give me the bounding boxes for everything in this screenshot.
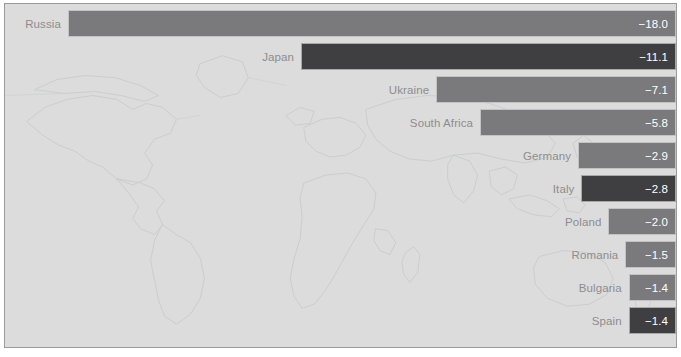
bar-rect: −5.8: [480, 109, 676, 136]
bar-row: Spain−1.4: [5, 307, 677, 334]
bar-category-label: Japan: [262, 51, 301, 63]
bar-value-label: −1.5: [645, 249, 675, 261]
bar-value-label: −11.1: [639, 51, 675, 63]
plot-area: Russia−18.0Japan−11.1Ukraine−7.1South Af…: [4, 3, 677, 348]
bar-value-label: −1.4: [645, 315, 675, 327]
bar-category-label: Italy: [553, 183, 582, 195]
bar-value-label: −7.1: [645, 84, 675, 96]
bar-rect: −1.4: [629, 307, 676, 334]
bar-category-label: Poland: [565, 216, 608, 228]
bar-value-label: −18.0: [638, 18, 675, 30]
bar-category-label: Spain: [592, 315, 629, 327]
bar-value-label: −2.0: [645, 216, 675, 228]
bar-rect: −1.4: [629, 274, 676, 301]
bar-row: South Africa−5.8: [5, 109, 677, 136]
bar-rect: −2.8: [581, 175, 676, 202]
bar-category-label: Russia: [25, 18, 68, 30]
bar-category-label: Germany: [523, 150, 578, 162]
bar-row: Japan−11.1: [5, 43, 677, 70]
bar-value-label: −2.9: [645, 150, 675, 162]
bar-value-label: −2.8: [645, 183, 675, 195]
bars-layer: Russia−18.0Japan−11.1Ukraine−7.1South Af…: [5, 4, 676, 347]
bar-category-label: Romania: [572, 249, 626, 261]
bar-category-label: Bulgaria: [579, 282, 629, 294]
bar-category-label: South Africa: [410, 117, 480, 129]
bar-rect: −2.9: [578, 142, 676, 169]
bar-rect: −2.0: [608, 208, 676, 235]
bar-row: Poland−2.0: [5, 208, 677, 235]
bar-row: Ukraine−7.1: [5, 76, 677, 103]
bar-row: Russia−18.0: [5, 10, 677, 37]
bar-row: Bulgaria−1.4: [5, 274, 677, 301]
bar-value-label: −5.8: [645, 117, 675, 129]
bar-rect: −11.1: [301, 43, 676, 70]
bar-row: Germany−2.9: [5, 142, 677, 169]
bar-rect: −1.5: [625, 241, 676, 268]
bar-row: Italy−2.8: [5, 175, 677, 202]
bar-category-label: Ukraine: [389, 84, 436, 96]
bar-value-label: −1.4: [645, 282, 675, 294]
bar-rect: −18.0: [68, 10, 676, 37]
bar-chart-figure: Russia−18.0Japan−11.1Ukraine−7.1South Af…: [0, 0, 681, 357]
bar-rect: −7.1: [436, 76, 676, 103]
bar-row: Romania−1.5: [5, 241, 677, 268]
